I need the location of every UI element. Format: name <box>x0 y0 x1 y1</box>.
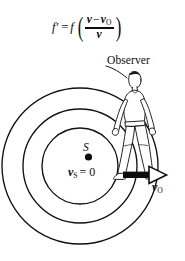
formula-numerator-vo-subscript: O <box>106 18 111 27</box>
formula-paren-open: ( <box>77 16 83 38</box>
observer-leg-back <box>118 126 135 175</box>
formula-prime-mark: ′ <box>55 21 58 34</box>
formula-numerator-v: v <box>87 13 92 25</box>
doppler-effect-figure: f′ = f ( v−vO v ) Observer S vS= 0 vO <box>0 0 185 261</box>
observer-figure <box>112 71 158 179</box>
observer-leader-line <box>106 66 127 78</box>
source-label: S <box>83 142 89 154</box>
source-velocity-subscript: S <box>73 171 77 180</box>
formula-equals: = <box>61 21 68 34</box>
source-velocity-label: vS= 0 <box>68 166 95 180</box>
observer-velocity-subscript: O <box>157 186 162 195</box>
observer-hand-back <box>112 128 118 135</box>
formula-numerator-minus: − <box>93 13 100 25</box>
velocity-arrow-shaft <box>123 172 150 178</box>
source-velocity-equals-zero: = 0 <box>80 165 96 179</box>
source-point-dot <box>85 153 92 160</box>
formula-paren-close: ) <box>115 16 121 38</box>
observer-torso <box>124 90 146 124</box>
formula-denominator: v <box>95 29 104 41</box>
doppler-formula: f′ = f ( v−vO v ) <box>52 14 123 41</box>
formula-fraction: v−vO v <box>85 14 114 41</box>
observer-velocity-label: vO <box>152 181 163 195</box>
observer-hand-front <box>149 128 155 135</box>
formula-numerator: v−vO <box>85 14 114 27</box>
observer-label: Observer <box>107 55 150 67</box>
formula-f-symbol: f <box>70 21 73 34</box>
